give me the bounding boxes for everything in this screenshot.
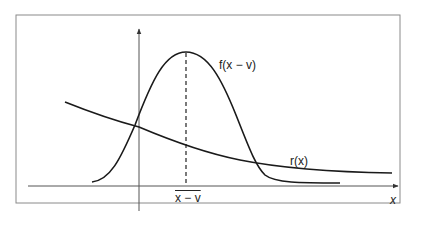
frame-border [16,15,400,203]
curve-f-label: f(x − v) [219,59,256,71]
x-axis-label: x [390,194,396,206]
curve-r [65,102,392,173]
diagram-canvas [0,0,424,235]
marker-label: x − v [175,192,201,204]
curve-r-label: r(x) [290,155,308,167]
